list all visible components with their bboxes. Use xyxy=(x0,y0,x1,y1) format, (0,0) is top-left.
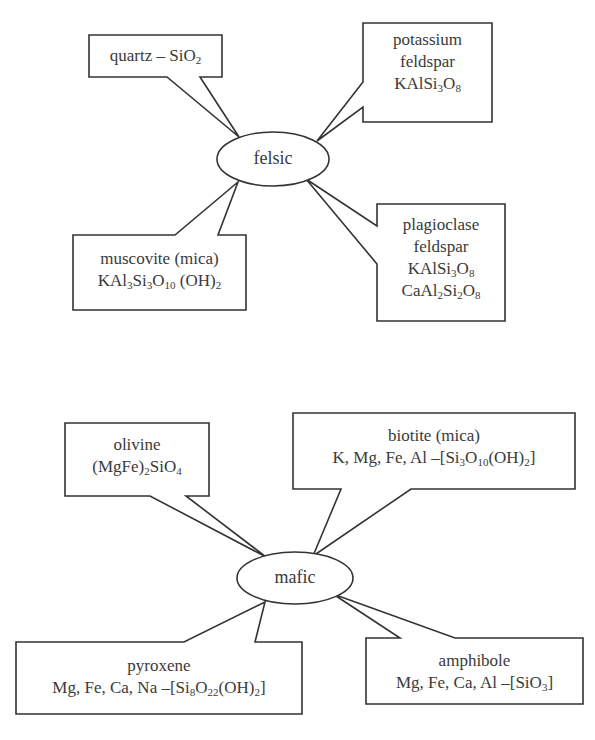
callout-line: potassium xyxy=(363,29,492,51)
callout-line: feldspar xyxy=(377,236,505,258)
mafic-label: mafic xyxy=(237,567,353,588)
callout-line: KAlSi3O8 xyxy=(363,73,492,95)
callout-potassium-feldspar: potassiumfeldsparKAlSi3O8 xyxy=(363,29,492,95)
callout-line: CaAl2Si2O8 xyxy=(377,280,505,302)
callout-pyroxene: pyroxeneMg, Fe, Ca, Na –[Si8O22(OH)2] xyxy=(16,655,302,699)
callout-line: Mg, Fe, Ca, Na –[Si8O22(OH)2] xyxy=(16,677,302,699)
callout-quartz: quartz – SiO2 xyxy=(89,45,222,67)
callout-line: KAl3Si3O10 (OH)2 xyxy=(73,270,246,292)
callout-plagioclase-feldspar: plagioclasefeldsparKAlSi3O8CaAl2Si2O8 xyxy=(377,214,505,302)
callout-line: olivine xyxy=(65,434,209,456)
callout-line: muscovite (mica) xyxy=(73,248,246,270)
felsic-label: felsic xyxy=(217,148,329,169)
diagram-canvas xyxy=(0,0,595,740)
callout-line: (MgFe)2SiO4 xyxy=(65,456,209,478)
callout-olivine: olivine(MgFe)2SiO4 xyxy=(65,434,209,478)
callout-muscovite: muscovite (mica)KAl3Si3O10 (OH)2 xyxy=(73,248,246,292)
callout-biotite: biotite (mica)K, Mg, Fe, Al –[Si3O10(OH)… xyxy=(293,425,575,469)
callout-line: pyroxene xyxy=(16,655,302,677)
callout-line: biotite (mica) xyxy=(293,425,575,447)
callout-line: K, Mg, Fe, Al –[Si3O10(OH)2] xyxy=(293,447,575,469)
callout-line: plagioclase xyxy=(377,214,505,236)
callout-line: Mg, Fe, Ca, Al –[SiO3] xyxy=(366,672,583,694)
callout-line: quartz – SiO2 xyxy=(89,45,222,67)
callout-line: amphibole xyxy=(366,650,583,672)
callout-line: feldspar xyxy=(363,51,492,73)
callout-line: KAlSi3O8 xyxy=(377,258,505,280)
callout-amphibole: amphiboleMg, Fe, Ca, Al –[SiO3] xyxy=(366,650,583,694)
